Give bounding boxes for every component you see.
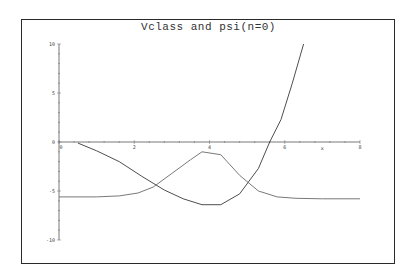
axes: 1050-5-1002468x	[46, 41, 362, 243]
series-line-psi-n-0-	[59, 152, 360, 199]
series-line-vclass	[78, 44, 304, 205]
y-tick-label: -10	[46, 237, 55, 243]
y-tick-label: 0	[52, 139, 55, 145]
x-tick-label: 2	[133, 144, 136, 150]
y-tick-label: 10	[49, 41, 55, 47]
x-tick-label: 8	[358, 144, 361, 150]
y-tick-label: 5	[52, 90, 55, 96]
plot-area: 1050-5-1002468x	[0, 0, 417, 277]
x-axis-label: x	[321, 145, 324, 151]
series-lines	[59, 44, 360, 205]
x-tick-label: 0	[59, 144, 62, 150]
y-tick-label: -5	[49, 188, 55, 194]
x-tick-label: 4	[208, 144, 211, 150]
x-tick-label: 6	[283, 144, 286, 150]
